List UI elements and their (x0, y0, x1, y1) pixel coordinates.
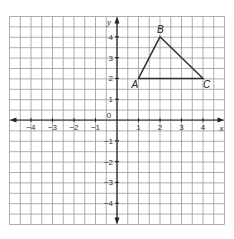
y-tick-label: −4 (104, 199, 114, 208)
x-tick-label: −1 (91, 123, 101, 132)
x-axis-arrow-right-icon (218, 118, 225, 123)
x-tick-label: −3 (48, 123, 58, 132)
x-axis-label: x (219, 123, 224, 133)
x-tick-label: 1 (136, 123, 141, 132)
y-axis-arrow-down-icon (115, 218, 120, 225)
y-axis-label: y (106, 17, 111, 27)
x-tick-label: −2 (69, 123, 79, 132)
origin-label: 0 (107, 111, 112, 120)
y-tick-label: 3 (109, 54, 114, 63)
y-tick-label: −1 (104, 137, 114, 146)
x-tick-label: 4 (201, 123, 206, 132)
coordinate-grid: xy0 −4−3−2−112344321−1−2−3−4 ABC (0, 0, 234, 239)
vertex-label-a: A (131, 79, 139, 90)
x-tick-label: 3 (179, 123, 184, 132)
y-tick-label: −3 (104, 178, 114, 187)
y-tick-label: 4 (109, 33, 114, 42)
y-tick-label: 2 (109, 74, 114, 83)
y-tick-label: −2 (104, 158, 114, 167)
y-axis-arrow-up-icon (115, 17, 120, 24)
x-axis-arrow-left-icon (10, 118, 17, 123)
y-tick-label: 1 (109, 95, 114, 104)
vertex-label-c: C (203, 79, 211, 90)
vertex-label-b: B (157, 24, 164, 35)
x-tick-label: −4 (26, 123, 36, 132)
x-tick-label: 2 (158, 123, 163, 132)
